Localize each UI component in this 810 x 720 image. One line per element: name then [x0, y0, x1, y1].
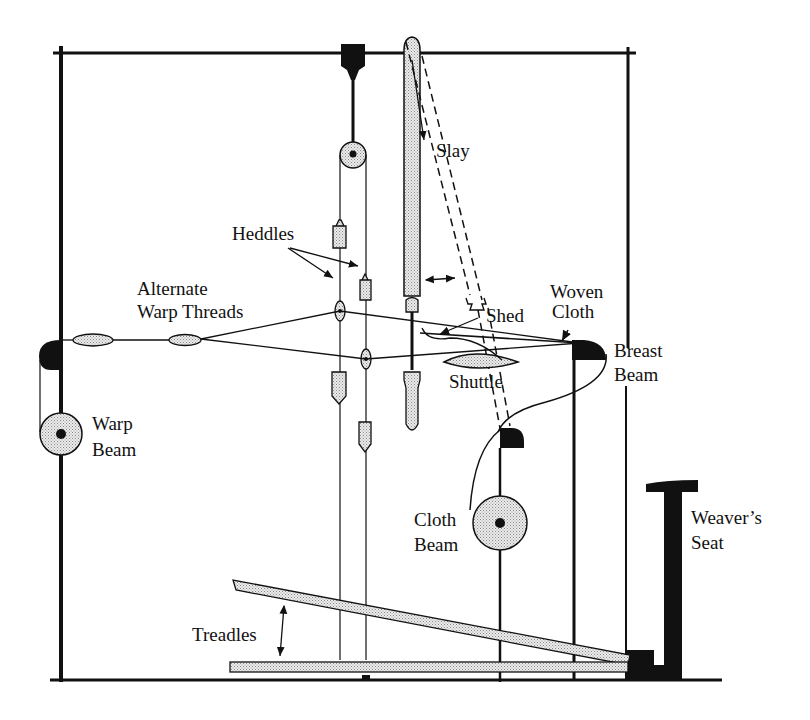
label-cloth-beam-line2: Beam: [414, 534, 459, 555]
label-breast-beam-line1: Breast: [614, 340, 663, 361]
weavers-seat: [626, 480, 698, 680]
heddles: [332, 220, 371, 452]
label-shed: Shed: [486, 305, 525, 326]
heddles-arrows: [288, 248, 358, 278]
label-breast-beam-line2: Beam: [614, 364, 659, 385]
label-heddles: Heddles: [232, 223, 294, 244]
label-cloth-beam-line1: Cloth: [414, 509, 457, 530]
label-woven-cloth-line2: Cloth: [552, 301, 595, 322]
label-shuttle: Shuttle: [449, 371, 503, 392]
label-weavers-seat-line1: Weaver’s: [691, 507, 762, 528]
label-warp-beam-line2: Beam: [92, 439, 137, 460]
label-alternate-warp-line2: Warp Threads: [137, 301, 243, 322]
label-slay: Slay: [436, 140, 470, 161]
label-warp-beam-line1: Warp: [92, 413, 133, 434]
label-woven-cloth-line1: Woven: [550, 281, 604, 302]
label-weavers-seat-line2: Seat: [691, 532, 724, 553]
loom-diagram: Heddles Alternate Warp Threads Slay Shed…: [0, 0, 810, 720]
label-treadles: Treadles: [192, 624, 257, 645]
label-alternate-warp-line1: Alternate: [137, 278, 208, 299]
shuttle: [444, 354, 518, 368]
treadles: [230, 580, 630, 680]
